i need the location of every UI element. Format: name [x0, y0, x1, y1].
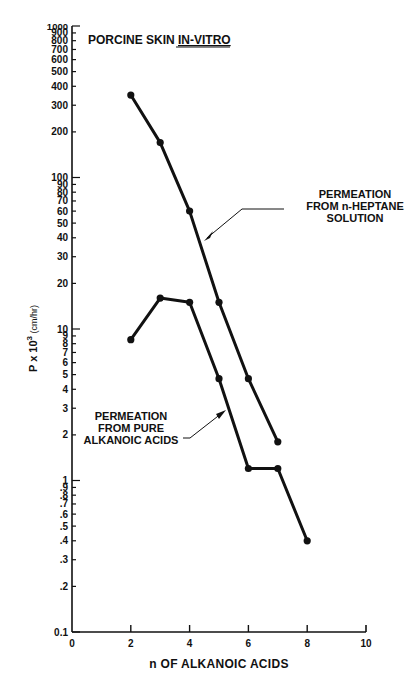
data-point	[127, 91, 134, 98]
data-point	[274, 438, 281, 445]
data-point	[245, 375, 252, 382]
arrow-head-icon	[216, 410, 226, 419]
y-tick-label: .4	[60, 535, 69, 546]
x-tick-label: 2	[128, 638, 134, 649]
y-tick-label: 500	[51, 66, 68, 77]
y-tick-label: 30	[57, 251, 69, 262]
annotation-heptane: SOLUTION	[327, 212, 384, 224]
y-tick-label: 50	[57, 218, 69, 229]
y-tick-label: 5	[62, 369, 68, 380]
annotation-pure: FROM PURE	[98, 422, 164, 434]
annotation-heptane-arrow-line	[207, 209, 242, 238]
data-point	[186, 299, 193, 306]
chart: 1000900800700600500400300200100908070605…	[0, 0, 415, 689]
data-point	[215, 299, 222, 306]
y-tick-label: 200	[51, 126, 68, 137]
x-tick-label: 0	[69, 638, 75, 649]
series-line-0	[131, 95, 278, 442]
x-tick-label: 6	[246, 638, 252, 649]
data-point	[274, 465, 281, 472]
x-axis-label: n OF ALKANOIC ACIDS	[149, 657, 288, 671]
data-point	[127, 336, 134, 343]
y-tick-label: 0.1	[54, 627, 68, 638]
y-tick-label: 20	[57, 278, 69, 289]
x-tick-label: 10	[360, 638, 372, 649]
y-tick-label: 3	[62, 403, 68, 414]
y-tick-label: 40	[57, 232, 69, 243]
y-tick-label: .3	[60, 554, 69, 565]
data-point	[245, 465, 252, 472]
y-tick-label: .5	[60, 521, 69, 532]
y-tick-label: .6	[60, 509, 69, 520]
chart-title: PORCINE SKIN IN-VITRO	[88, 33, 231, 47]
data-point	[186, 208, 193, 215]
data-point	[304, 537, 311, 544]
data-point	[157, 294, 164, 301]
data-point	[157, 139, 164, 146]
x-tick-label: 8	[304, 638, 310, 649]
y-axis-label: P x 103 (cm/hr)	[25, 305, 39, 372]
annotation-heptane: FROM n-HEPTANE	[306, 200, 404, 212]
y-tick-label: 400	[51, 81, 68, 92]
y-tick-label: 4	[62, 384, 68, 395]
annotation-pure: ALKANOIC ACIDS	[84, 434, 179, 446]
y-tick-label: 60	[57, 206, 69, 217]
y-tick-label: 6	[62, 357, 68, 368]
arrow-head-icon	[204, 231, 213, 241]
x-tick-label: 4	[187, 638, 193, 649]
annotation-heptane: PERMEATION	[319, 188, 392, 200]
y-tick-label: 600	[51, 54, 68, 65]
data-point	[215, 375, 222, 382]
y-tick-label: 2	[62, 429, 68, 440]
y-tick-label: .2	[60, 581, 69, 592]
annotation-pure: PERMEATION	[95, 410, 168, 422]
annotation-pure-arrow-line	[190, 413, 222, 438]
y-tick-label: 300	[51, 100, 68, 111]
